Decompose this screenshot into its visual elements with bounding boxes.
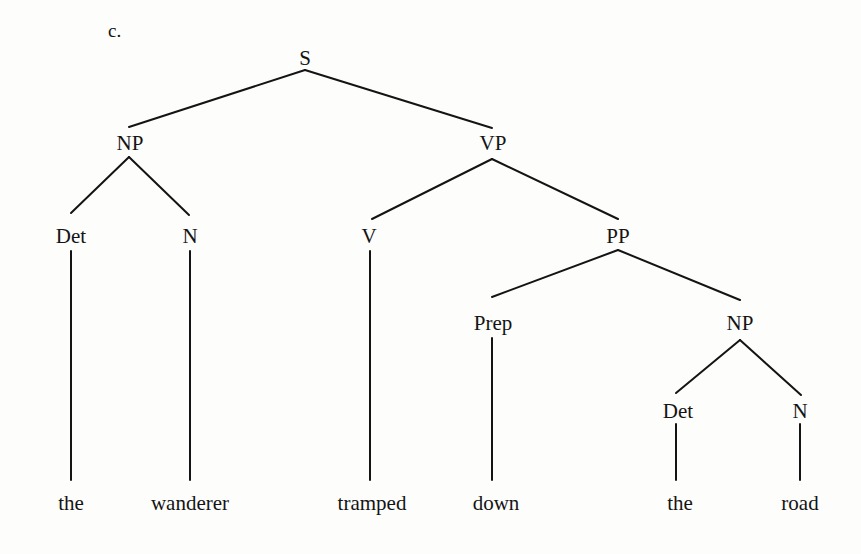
node-s: S <box>299 48 311 69</box>
word-wanderer: wanderer <box>151 493 229 514</box>
node-np-object: NP <box>727 313 754 334</box>
edge-np1-n1 <box>129 157 189 215</box>
edge-pp-prep <box>492 250 618 297</box>
node-det-subject: Det <box>56 226 86 247</box>
node-vp: VP <box>480 133 507 154</box>
node-n-subject: N <box>182 226 197 247</box>
edge-pp-np2 <box>618 250 740 300</box>
word-down: down <box>473 493 520 514</box>
node-det-object: Det <box>663 401 693 422</box>
edge-vp-v <box>372 159 492 219</box>
edge-np2-n2 <box>740 340 801 395</box>
tree-edges <box>0 0 861 554</box>
node-np-subject: NP <box>117 133 144 154</box>
edge-vp-pp <box>492 159 618 219</box>
node-v: V <box>361 226 376 247</box>
node-pp: PP <box>606 226 629 247</box>
word-the-1: the <box>58 493 84 514</box>
word-road: road <box>781 493 818 514</box>
node-n-object: N <box>792 401 807 422</box>
word-tramped: tramped <box>338 493 407 514</box>
edge-s-np1 <box>129 70 305 127</box>
edge-np1-det1 <box>71 157 129 213</box>
node-prep: Prep <box>474 313 513 334</box>
edge-s-vp <box>305 70 492 128</box>
word-the-2: the <box>667 493 693 514</box>
edge-np2-det2 <box>676 340 740 393</box>
example-caption: c. <box>108 20 121 42</box>
